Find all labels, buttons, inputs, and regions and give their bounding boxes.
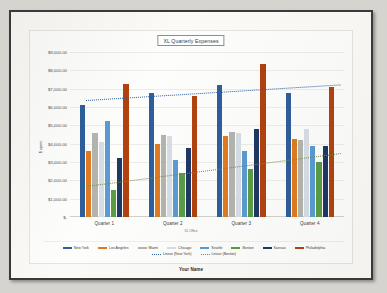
bar-group: Quarter 3 bbox=[207, 52, 276, 217]
bar-kansas[interactable] bbox=[186, 148, 191, 217]
bar-groups: Quarter 1Quarter 2Quarter 3Quarter 4 bbox=[70, 52, 344, 217]
bar-seattle[interactable] bbox=[105, 121, 110, 217]
legend-swatch bbox=[167, 247, 176, 250]
legend-item[interactable]: Philadelphia bbox=[295, 246, 326, 250]
bar-miami[interactable] bbox=[298, 140, 303, 217]
legend-item[interactable]: Miami bbox=[138, 246, 159, 250]
legend-label: Seattle bbox=[211, 246, 222, 250]
bar-los-angeles[interactable] bbox=[223, 136, 228, 217]
y-axis-tick-label: $3,000.00 bbox=[48, 160, 67, 165]
bar-philadelphia[interactable] bbox=[260, 64, 265, 217]
legend-label: Chicago bbox=[178, 246, 191, 250]
bar-miami[interactable] bbox=[161, 135, 166, 217]
bar-los-angeles[interactable] bbox=[292, 139, 297, 217]
bar-boston[interactable] bbox=[179, 173, 184, 217]
y-axis-tick-label: $2,000.00 bbox=[48, 178, 67, 183]
bar-los-angeles[interactable] bbox=[86, 151, 91, 217]
bar-kansas[interactable] bbox=[117, 158, 122, 217]
plot-area: $-$1,000.00$2,000.00$3,000.00$4,000.00$5… bbox=[70, 52, 344, 217]
bar-chicago[interactable] bbox=[304, 129, 309, 217]
y-axis-tick-label: $7,000.00 bbox=[48, 86, 67, 91]
bar-boston[interactable] bbox=[316, 162, 321, 217]
bar-kansas[interactable] bbox=[254, 129, 259, 217]
legend-swatch bbox=[263, 247, 272, 250]
y-axis-tick-label: $8,000.00 bbox=[48, 68, 67, 73]
bar-miami[interactable] bbox=[92, 133, 97, 217]
y-axis-tick-label: $5,000.00 bbox=[48, 123, 67, 128]
bar-new-york[interactable] bbox=[286, 93, 291, 217]
bar-chicago[interactable] bbox=[167, 136, 172, 217]
legend-swatch bbox=[63, 247, 72, 250]
y-axis-tick-label: $4,000.00 bbox=[48, 141, 67, 146]
y-axis-tick-label: $- bbox=[63, 215, 67, 220]
bar-seattle[interactable] bbox=[173, 160, 178, 217]
bar-seattle[interactable] bbox=[310, 146, 315, 217]
bar-philadelphia[interactable] bbox=[329, 87, 334, 217]
legend-label: Kansas bbox=[274, 246, 286, 250]
legend-item[interactable]: Kansas bbox=[263, 246, 286, 250]
y-axis-tick-label: $6,000.00 bbox=[48, 105, 67, 110]
chart-container[interactable]: XL Quarterly Expenses $ spent $-$1,000.0… bbox=[29, 30, 353, 264]
x-axis-tick-label: Quarter 3 bbox=[232, 221, 251, 226]
legend-item[interactable]: Seattle bbox=[200, 246, 222, 250]
legend-label: Los Angeles bbox=[109, 246, 129, 250]
bar-seattle[interactable] bbox=[242, 151, 247, 217]
bar-group: Quarter 4 bbox=[276, 52, 345, 217]
bar-boston[interactable] bbox=[111, 190, 116, 218]
legend-label: Boston bbox=[242, 246, 253, 250]
page-background: XL Quarterly Expenses $ spent $-$1,000.0… bbox=[0, 0, 387, 293]
bar-philadelphia[interactable] bbox=[123, 84, 128, 217]
bar-new-york[interactable] bbox=[80, 105, 85, 217]
x-axis-tick-label: Quarter 1 bbox=[95, 221, 114, 226]
bar-los-angeles[interactable] bbox=[155, 144, 160, 217]
legend-label: New York bbox=[74, 246, 89, 250]
legend-label: Linear (Boston) bbox=[212, 252, 237, 256]
x-axis-tick-label: Quarter 2 bbox=[163, 221, 182, 226]
bar-boston[interactable] bbox=[248, 169, 253, 217]
bar-chicago[interactable] bbox=[236, 133, 241, 217]
legend-item[interactable]: Linear (Boston) bbox=[201, 252, 237, 256]
legend-swatch bbox=[152, 254, 161, 255]
legend-swatch bbox=[200, 247, 209, 250]
footer-your-name: Your Name bbox=[179, 267, 203, 272]
legend-swatch bbox=[98, 247, 107, 250]
legend-item[interactable]: Los Angeles bbox=[98, 246, 129, 250]
y-axis-tick-label: $9,000.00 bbox=[48, 50, 67, 55]
x-axis-tick-label: Quarter 4 bbox=[300, 221, 319, 226]
bar-miami[interactable] bbox=[229, 132, 234, 217]
legend-swatch bbox=[295, 247, 304, 250]
legend-item[interactable]: Chicago bbox=[167, 246, 191, 250]
document-page: XL Quarterly Expenses $ spent $-$1,000.0… bbox=[9, 10, 373, 280]
bar-group: Quarter 2 bbox=[139, 52, 208, 217]
y-axis-tick-label: $1,000.00 bbox=[48, 196, 67, 201]
bar-new-york[interactable] bbox=[217, 85, 222, 217]
legend-item[interactable]: New York bbox=[63, 246, 89, 250]
legend-swatch bbox=[231, 247, 240, 250]
legend-item[interactable]: Linear (New York) bbox=[152, 252, 192, 256]
bar-philadelphia[interactable] bbox=[192, 96, 197, 217]
legend-label: Linear (New York) bbox=[163, 252, 192, 256]
chart-title: XL Quarterly Expenses bbox=[157, 35, 224, 46]
legend-swatch bbox=[138, 247, 147, 250]
x-axis-title: XL Office bbox=[185, 229, 198, 233]
bar-new-york[interactable] bbox=[149, 93, 154, 217]
legend-swatch bbox=[201, 254, 210, 255]
bar-kansas[interactable] bbox=[323, 146, 328, 217]
bar-chicago[interactable] bbox=[99, 142, 104, 217]
bar-group: Quarter 1 bbox=[70, 52, 139, 217]
y-axis-title: $ spent bbox=[39, 141, 43, 153]
legend-label: Philadelphia bbox=[306, 246, 326, 250]
chart-legend: New YorkLos AngelesMiamiChicagoSeattleBo… bbox=[44, 241, 344, 256]
legend-label: Miami bbox=[149, 246, 159, 250]
legend-item[interactable]: Boston bbox=[231, 246, 253, 250]
